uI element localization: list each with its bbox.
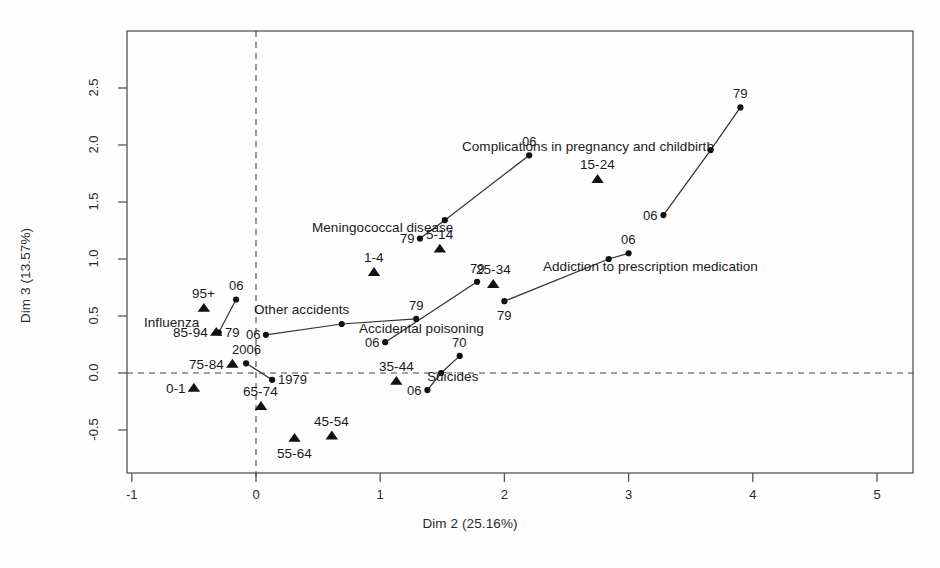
age-group-triangle-marker [288,433,300,442]
age-group-label: 15-24 [580,157,615,172]
trajectory-point-marker [660,212,666,218]
y-tick-label: 0.0 [86,353,101,393]
cause-of-death-label: Accidental poisoning [359,321,484,336]
age-group-label: 65-74 [243,384,278,399]
year-point-label: 1979 [278,372,307,387]
trajectory-point-marker [474,279,480,285]
cause-of-death-label: Addiction to prescription medication [543,259,758,274]
trajectory-point-marker [417,235,423,241]
age-group-label: 1-4 [364,250,384,265]
y-tick-label: 2.5 [86,68,101,108]
scatter-plot-figure: -1012345-0.50.00.51.01.52.02.5 7906Influ… [0,0,940,568]
y-tick-label: 0.5 [86,296,101,336]
trajectory-point-marker [243,360,249,366]
age-group-triangle-marker [434,244,446,253]
y-tick-label: 1.5 [86,182,101,222]
year-point-label: 06 [246,327,261,342]
trajectory-point-marker [737,104,743,110]
trajectory-point-marker [457,353,463,359]
year-point-label: 06 [643,208,658,223]
cause-of-death-label: Complications in pregnancy and childbirt… [462,139,714,154]
year-point-label: 06 [365,335,380,350]
reference-lines [127,31,913,479]
age-group-label: 45-54 [314,414,349,429]
y-tick-label: 1.0 [86,239,101,279]
trajectory-point-marker [263,332,269,338]
age-group-triangle-marker [255,401,267,410]
x-tick-label: 1 [360,487,400,502]
trajectory-point-marker [269,377,275,383]
trajectory-point-marker [339,321,345,327]
trajectory-point-marker [233,296,239,302]
year-point-label: 79 [497,308,512,323]
y-tick-label: 2.0 [86,125,101,165]
trajectory-line [663,107,740,215]
plot-border [127,31,913,473]
age-group-label: 0-1 [166,381,186,396]
trajectory-point-marker [501,298,507,304]
age-group-label: 85-94 [173,325,208,340]
cause-of-death-label: Other accidents [254,302,349,317]
age-group-label: 35-44 [379,359,414,374]
x-tick-label: 3 [609,487,649,502]
x-axis-title: Dim 2 (25.16%) [0,516,940,531]
age-group-triangle-marker [390,376,402,385]
cause-of-death-label: Suicides [427,369,478,384]
age-group-triangle-marker [198,303,210,312]
year-point-label: 06 [621,232,636,247]
age-group-triangle-marker [487,279,499,288]
x-tick-label: 0 [236,487,276,502]
axis-frame [118,31,913,482]
age-group-triangle-marker [326,431,338,440]
trajectory-point-marker [626,250,632,256]
plot-canvas [0,0,940,568]
y-tick-label: -0.5 [86,410,101,450]
age-group-label: 5-14 [426,227,453,242]
x-tick-label: 5 [857,487,897,502]
x-tick-label: 4 [733,487,773,502]
trajectory-point-marker [382,339,388,345]
year-point-label: 2006 [232,342,261,357]
age-group-triangle-marker [591,174,603,183]
age-group-triangle-marker [188,383,200,392]
year-point-label: 70 [452,335,467,350]
age-group-markers [188,174,604,442]
age-group-label: 25-34 [476,262,511,277]
trajectory-point-marker [424,387,430,393]
year-point-label: 79 [733,86,748,101]
age-group-label: 55-64 [277,446,312,461]
year-point-label: 06 [407,383,422,398]
age-group-triangle-marker [368,267,380,276]
x-tick-label: -1 [112,487,152,502]
age-group-label: 75-84 [189,357,224,372]
age-group-triangle-marker [226,359,238,368]
year-point-label: 79 [409,298,424,313]
x-tick-label: 2 [484,487,524,502]
year-point-label: 79 [225,325,240,340]
age-group-label: 95+ [192,286,215,301]
year-point-label: 06 [229,278,244,293]
y-axis-title: Dim 3 (13.57%) [18,196,33,356]
year-connector-line [246,363,272,380]
